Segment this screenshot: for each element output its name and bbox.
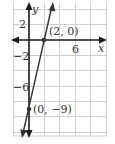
point-label-0-neg9: (0, −9) <box>33 104 72 115</box>
x-tick-6: 6 <box>72 44 79 55</box>
y-axis-down-arrow-icon <box>26 130 33 138</box>
y-tick-neg6: −6 <box>13 82 29 93</box>
y-tick-neg2: −2 <box>13 51 29 62</box>
line-up-arrow-icon <box>49 2 56 12</box>
y-axis-label: y <box>32 4 38 15</box>
y-tick-2: 2 <box>19 19 26 30</box>
coordinate-plot <box>0 0 115 144</box>
point-2-0 <box>42 38 47 43</box>
point-label-2-0: (2, 0) <box>49 26 79 37</box>
line-down-arrow-icon <box>20 129 27 138</box>
x-axis-left-arrow-icon <box>11 37 19 44</box>
point-0-neg9 <box>27 107 32 112</box>
x-axis-label: x <box>98 43 104 54</box>
